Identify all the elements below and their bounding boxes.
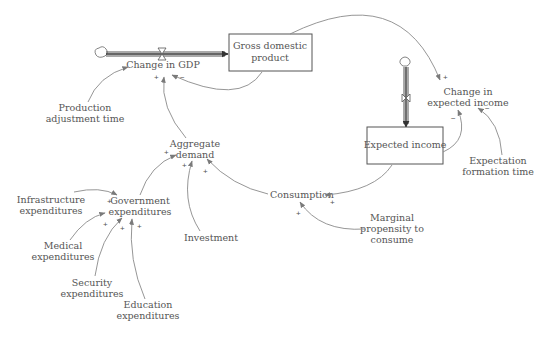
infrastructure-expenditures-line1: Infrastructure [17,194,86,205]
change-expected-income-line1: Change in [443,86,492,97]
polarity-sign: − [451,114,456,123]
marginal-propensity-line2: propensity to [360,223,424,234]
production-adjustment-time-line1: Production [59,102,112,113]
cloud-source-icon [95,47,107,58]
production-adjustment-time-line2: adjustment time [46,113,125,124]
government-expenditures-line1: Government [110,195,170,206]
expectation-formation-time-line1: Expectation [469,155,527,166]
polarity-sign: + [164,148,169,157]
gdp-label-line2: product [251,52,289,63]
polarity-sign: − [180,73,185,82]
gdp-inflow [95,47,228,60]
consumption-label: Consumption [270,189,334,200]
government-expenditures-line2: expenditures [109,206,172,217]
change-in-gdp-label: Change in GDP [126,59,200,70]
polarity-sign: + [103,220,108,229]
education-expenditures-line1: Education [124,299,173,310]
polarity-sign: + [203,167,208,176]
stock-flow-diagram: Change in GDP Gross domestic product Exp… [0,0,551,337]
polarity-sign: + [296,209,301,218]
polarity-sign: + [182,161,187,170]
investment-label: Investment [184,232,238,243]
security-expenditures-line2: expenditures [61,288,124,299]
polarity-sign: + [443,73,448,82]
gdp-stock: Gross domestic product [229,34,312,71]
cloud-source-icon [400,57,410,66]
polarity-sign: − [485,104,490,113]
expected-income-inflow [400,57,410,127]
polarity-sign: + [137,222,142,231]
marginal-propensity-line3: consume [371,234,414,245]
gdp-label-line1: Gross domestic [233,40,307,51]
polarity-sign: + [107,197,112,206]
medical-expenditures-line1: Medical [44,240,83,251]
expectation-formation-time-line2: formation time [462,166,534,177]
change-expected-income-line2: expected income [427,97,509,108]
expected-income-stock: Expected income [364,127,447,164]
polarity-sign: + [154,73,159,82]
aggregate-demand-line1: Aggregate [169,138,221,149]
marginal-propensity-line1: Marginal [370,212,414,223]
medical-expenditures-line2: expenditures [32,251,95,262]
aggregate-demand-line2: demand [176,149,215,160]
polarity-sign: + [120,224,125,233]
education-expenditures-line2: expenditures [117,310,180,321]
infrastructure-expenditures-line2: expenditures [20,205,83,216]
polarity-sign: + [330,198,335,207]
expected-income-label: Expected income [364,139,447,150]
security-expenditures-line1: Security [72,277,113,288]
